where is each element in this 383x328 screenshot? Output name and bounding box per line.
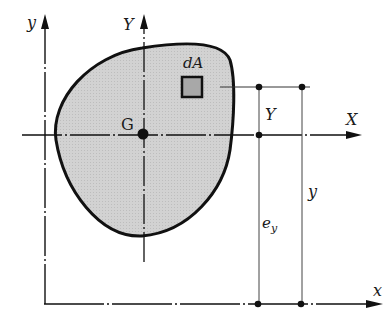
- global-y-arrow-icon: [41, 14, 49, 29]
- label-e-subscript: y: [270, 222, 278, 235]
- label-e: e: [262, 214, 271, 232]
- dim-dot: [298, 301, 305, 308]
- dim-dot: [256, 132, 263, 139]
- label-dA: dA: [183, 54, 204, 72]
- label-e-y: ey: [262, 214, 278, 235]
- dim-dot: [255, 301, 262, 308]
- label-global-y: y: [26, 13, 37, 32]
- label-centroid-X: X: [344, 110, 358, 129]
- dim-dot: [256, 84, 263, 91]
- centroid-Y-arrow-icon: [140, 14, 148, 29]
- centroid-X-arrow-icon: [346, 131, 362, 139]
- centroid-diagram: y Y G dA Y X y ey x: [0, 0, 383, 328]
- label-centroid-Y: Y: [123, 15, 135, 34]
- centroid-point: [138, 129, 149, 140]
- label-dim-y: y: [307, 182, 318, 201]
- label-global-x: x: [373, 281, 382, 300]
- global-x-arrow-icon: [366, 300, 383, 308]
- label-centroid-G: G: [121, 115, 134, 134]
- label-dim-Y: Y: [265, 105, 277, 124]
- area-element-dA: [182, 77, 202, 97]
- dim-dot: [299, 84, 306, 91]
